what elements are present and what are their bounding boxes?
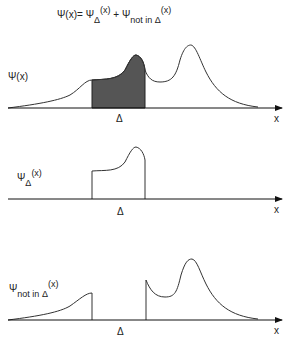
label-arg: (x): [48, 279, 59, 289]
label-sub: Δ: [25, 178, 31, 188]
curve-right-part: [146, 259, 258, 320]
panel2-region-label: Δ: [117, 206, 124, 217]
label-sub: not in Δ: [17, 289, 48, 299]
panel1-axis-label: x: [274, 113, 279, 124]
label-arg: (x): [31, 168, 42, 178]
panel3-axis-label: x: [274, 325, 279, 336]
panel1-region-label: Δ: [116, 113, 123, 124]
panel2-axis-label: x: [274, 204, 279, 215]
panel2-label: ΨΔ(x): [17, 172, 42, 183]
panel-full-wavefunction: [8, 45, 282, 108]
panel1-label: Ψ(x): [8, 71, 28, 82]
label-symbol: Ψ(x): [8, 71, 28, 82]
panel3-label: Ψnot in Δ(x): [9, 283, 58, 294]
shaded-region: [92, 55, 145, 108]
panel-psi-delta: [8, 147, 282, 199]
curve-psi-delta: [92, 147, 145, 199]
panel3-region-label: Δ: [117, 326, 124, 337]
